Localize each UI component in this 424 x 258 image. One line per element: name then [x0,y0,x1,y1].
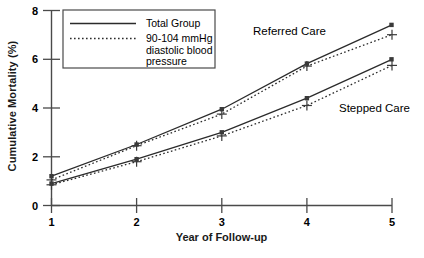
x-tick-label-3: 3 [219,216,225,228]
x-tick-label-5: 5 [389,216,395,228]
y-tick-label-0: 0 [32,200,38,212]
x-axis-title: Year of Follow-up [51,231,392,243]
legend-label-dbp-line1: 90-104 mmHg [146,32,213,44]
y-tick-label-8: 8 [32,5,38,17]
chart-figure: 8 6 4 2 0 1 2 3 4 5 Total Group 90-104 m… [0,0,424,258]
legend-label-dbp-line3: pressure [146,55,187,67]
y-tick-label-2: 2 [32,151,38,163]
stepped-care-label: Stepped Care [339,102,410,114]
y-axis-title-text: Cumulative Mortality (%) [6,41,18,172]
series-line-stepped-total-group [52,59,393,183]
referred-care-label: Referred Care [253,25,326,37]
y-tick-label-4: 4 [32,102,39,114]
x-tick-label-1: 1 [48,216,54,228]
legend-label-dbp-line2: diastolic blood [146,44,213,56]
y-axis-title: Cumulative Mortality (%) [0,0,26,212]
chart-canvas: 8 6 4 2 0 1 2 3 4 5 Total Group 90-104 m… [0,0,424,258]
legend-label-total-group: Total Group [146,17,200,29]
y-tick-label-6: 6 [32,53,38,65]
x-tick-label-2: 2 [134,216,140,228]
x-tick-label-4: 4 [304,216,311,228]
